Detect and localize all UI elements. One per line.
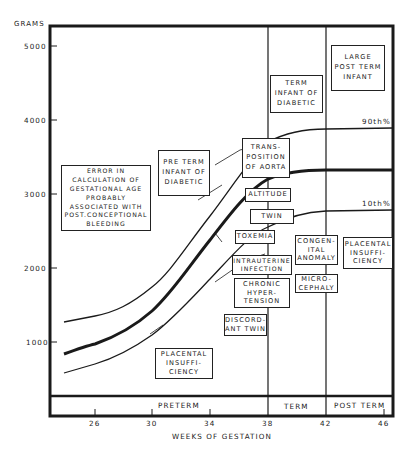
- box-microcephaly: MICRO-CEPHALY: [295, 274, 338, 293]
- x-tick-42: 42: [320, 420, 331, 427]
- box-toxemia: TOXEMIA: [235, 230, 275, 244]
- box-large-post-term: LARGEPOST TERMINFANT: [331, 45, 385, 91]
- x-tick-46: 46: [378, 420, 389, 427]
- x-tick-34: 34: [204, 420, 215, 427]
- y-tick-1000: 1000: [26, 339, 49, 346]
- box-placental-insufficiency-bottom: PLACENTALINSUFFI-CIENCY: [155, 348, 213, 379]
- x-tick-38: 38: [262, 420, 273, 427]
- box-twin: TWIN: [250, 209, 294, 224]
- box-chronic-hypertension: CHRONICHYPER-TENSION: [234, 278, 290, 308]
- box-term-diabetic: TERMINFANT OFDIABETIC: [270, 75, 323, 113]
- y-tick-5000: 5000: [24, 43, 47, 50]
- box-intrauterine-infection: INTRAUTERINEINFECTION: [232, 255, 292, 275]
- box-preterm-diabetic: PRE TERMINFANT OFDIABETIC: [158, 150, 210, 196]
- y-tick-3000: 3000: [24, 191, 47, 198]
- period-preterm: PRETERM: [158, 402, 200, 409]
- y-axis-label: GRAMS: [14, 21, 45, 28]
- label-10th: 10th%: [362, 200, 391, 207]
- box-placental-insufficiency-right: PLACENTALINSUFFI-CIENCY: [343, 237, 393, 269]
- period-post-term: POST TERM: [334, 402, 385, 409]
- x-tick-30: 30: [146, 420, 157, 427]
- box-altitude: ALTITUDE: [245, 188, 291, 202]
- x-axis-label: WEEKS OF GESTATION: [172, 433, 272, 440]
- x-tick-26: 26: [89, 420, 100, 427]
- period-term: TERM: [284, 403, 309, 410]
- box-transposition-aorta: TRANS-POSITIONOF AORTA: [242, 138, 290, 178]
- box-error-calculation: ERROR INCALCULATION OFGESTATIONAL AGEPRO…: [61, 165, 151, 231]
- y-tick-2000: 2000: [24, 265, 47, 272]
- curve-10th-percentile: [64, 210, 393, 373]
- box-discordant-twin: DISCORD-ANT TWIN: [224, 314, 267, 336]
- y-tick-4000: 4000: [24, 117, 47, 124]
- label-90th: 90th%: [362, 118, 391, 125]
- box-congenital-anomaly: CONGEN-ITALANOMALY: [295, 235, 338, 265]
